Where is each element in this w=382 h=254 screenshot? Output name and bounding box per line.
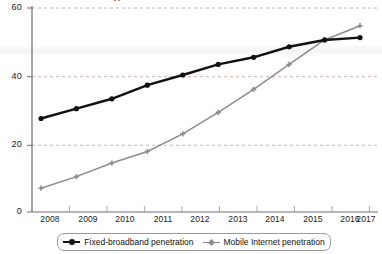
xtick-label-2008: 2008 bbox=[33, 214, 67, 224]
data-point-marker bbox=[251, 55, 256, 60]
data-point-marker bbox=[74, 174, 79, 179]
data-point-marker bbox=[145, 149, 150, 154]
xtick-label-2012: 2012 bbox=[183, 214, 217, 224]
data-point-marker bbox=[38, 116, 43, 121]
legend-label-fixed-broadband: Fixed-broadband penetration bbox=[84, 237, 193, 247]
data-point-marker bbox=[109, 160, 114, 165]
legend-marker-line-icon bbox=[63, 238, 80, 247]
xtick-label-2014: 2014 bbox=[258, 214, 292, 224]
xtick-label-2015: 2015 bbox=[296, 214, 330, 224]
ytick-label-40: 40 bbox=[0, 71, 22, 81]
legend-marker-line-icon bbox=[203, 238, 220, 247]
data-point-marker bbox=[180, 72, 185, 77]
ytick-label-20: 20 bbox=[0, 139, 22, 149]
data-point-marker bbox=[38, 186, 43, 191]
ytick-label-60: 60 bbox=[0, 2, 22, 12]
data-point-marker bbox=[74, 106, 79, 111]
xtick-label-2010: 2010 bbox=[108, 214, 142, 224]
data-point-marker bbox=[145, 83, 150, 88]
chart-legend: Fixed-broadband penetration Mobile Inter… bbox=[57, 233, 331, 251]
ytick-label-0: 0 bbox=[0, 206, 22, 216]
x-axis-ticks bbox=[32, 206, 369, 212]
gridlines bbox=[32, 8, 378, 145]
data-point-marker bbox=[357, 23, 362, 28]
data-point-marker bbox=[216, 62, 221, 67]
xtick-label-2013: 2013 bbox=[221, 214, 255, 224]
y-axis-ticks bbox=[27, 8, 32, 212]
legend-entry-fixed-broadband[interactable]: Fixed-broadband penetration bbox=[63, 237, 193, 247]
series-line-fixed-broadband-penetration bbox=[41, 38, 360, 119]
axis-lines bbox=[32, 6, 378, 212]
line-chart: Л bbox=[0, 0, 382, 254]
data-point-marker bbox=[287, 44, 292, 49]
series-line-mobile-internet-penetration bbox=[41, 26, 360, 189]
data-point-marker bbox=[322, 37, 327, 42]
legend-entry-mobile-internet[interactable]: Mobile Internet penetration bbox=[203, 237, 325, 247]
legend-label-mobile-internet: Mobile Internet penetration bbox=[224, 237, 325, 247]
xtick-label-2017: 2017 bbox=[349, 214, 382, 224]
data-point-marker bbox=[357, 35, 362, 40]
data-point-marker bbox=[109, 96, 114, 101]
xtick-label-2009: 2009 bbox=[71, 214, 105, 224]
xtick-label-2011: 2011 bbox=[146, 214, 180, 224]
